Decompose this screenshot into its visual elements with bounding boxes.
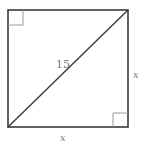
right-side-label: x <box>133 69 139 80</box>
right-angle-marker-bottom-right <box>113 113 128 127</box>
right-angle-marker-top-left <box>8 10 23 25</box>
bottom-side-label: x <box>60 132 66 143</box>
square-diagram: 15 x x <box>0 0 142 149</box>
diagonal-length-label: 15 <box>56 58 70 71</box>
